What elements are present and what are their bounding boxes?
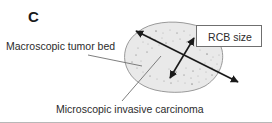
rcb-size-label: RCB size (197, 26, 263, 48)
microscopic-carcinoma-label: Microscopic invasive carcinoma (56, 104, 204, 116)
panel-letter: C (28, 8, 39, 25)
figure-panel-c: C Macroscopic tumor bed Microscopic inva… (0, 0, 272, 123)
macroscopic-tumor-bed-label: Macroscopic tumor bed (6, 41, 115, 53)
rcb-size-callout-box: RCB size (196, 25, 262, 47)
